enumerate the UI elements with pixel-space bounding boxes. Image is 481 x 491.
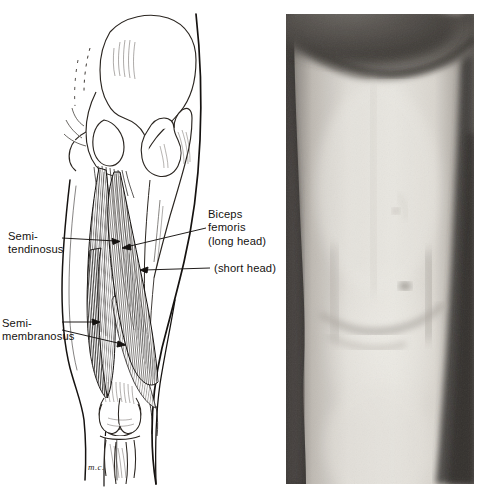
thigh-photograph — [286, 14, 474, 484]
label-semimembranosus: Semi-membranosus — [2, 317, 75, 344]
label-semimembranosus-line1: Semi- — [2, 317, 32, 329]
pelvis-bone — [64, 15, 196, 176]
label-biceps-line2: femoris — [208, 221, 246, 233]
thigh-photograph-image — [286, 14, 474, 484]
label-biceps-femoris-long-head: Bicepsfemoris(long head) — [208, 208, 266, 248]
label-biceps-line1: Biceps — [208, 208, 242, 220]
label-biceps-femoris-short-head: (short head) — [214, 262, 276, 275]
label-semitendinosus: Semi-tendinosus — [8, 230, 64, 257]
line-drawing-panel: Semi-tendinosus Semi-membranosus Bicepsf… — [0, 0, 276, 491]
anatomy-figure: Semi-tendinosus Semi-membranosus Bicepsf… — [0, 0, 481, 491]
label-semitendinosus-line1: Semi- — [8, 230, 38, 242]
knee-joint — [99, 398, 141, 484]
label-semimembranosus-line2: membranosus — [2, 330, 75, 342]
label-biceps-line3: (long head) — [208, 235, 266, 247]
biceps-femoris-muscle — [108, 172, 158, 385]
label-semitendinosus-line2: tendinosus — [8, 243, 64, 255]
label-shorthead-line1: (short head) — [214, 262, 276, 274]
artist-signature: m.c. — [88, 462, 105, 472]
